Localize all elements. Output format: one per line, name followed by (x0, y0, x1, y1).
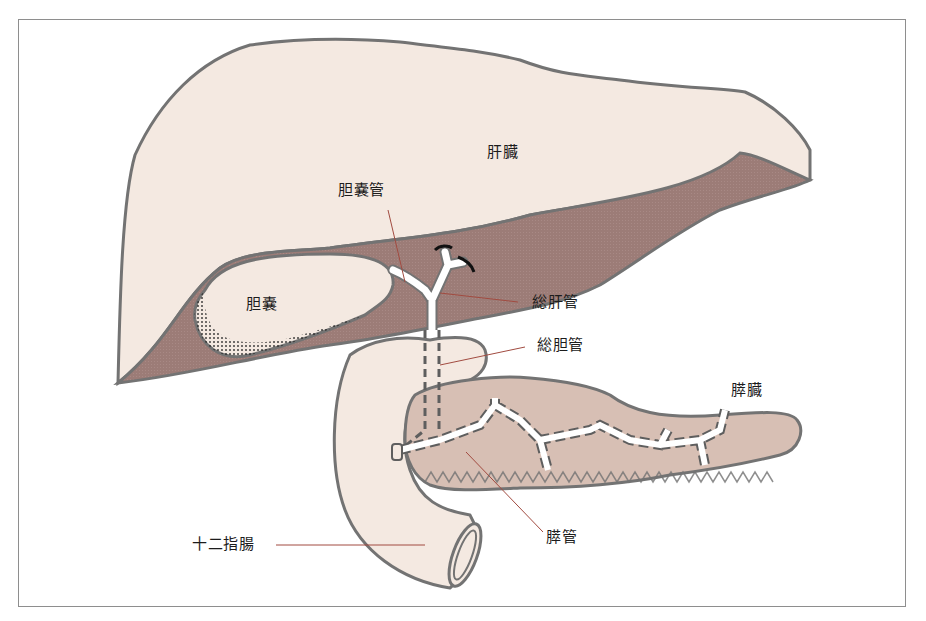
label-common-bile-duct: 総胆管 (537, 338, 584, 353)
label-liver: 肝臓 (487, 145, 518, 160)
label-pancreatic-duct: 膵管 (546, 530, 577, 545)
label-pancreas: 膵臓 (731, 383, 762, 398)
label-gallbladder: 胆嚢 (246, 297, 277, 312)
label-duodenum: 十二指腸 (192, 537, 254, 552)
label-common-hepatic-duct: 総肝管 (532, 295, 579, 310)
label-cystic-duct: 胆嚢管 (338, 183, 385, 198)
anatomy-illustration (0, 0, 926, 621)
